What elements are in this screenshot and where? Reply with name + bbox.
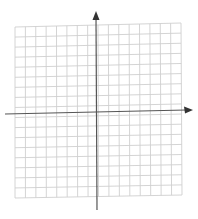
y-axis xyxy=(96,18,97,210)
grid-line-vertical xyxy=(108,25,109,197)
grid-line-vertical xyxy=(160,24,161,196)
grid-line-vertical xyxy=(119,25,120,197)
grid-line-vertical xyxy=(129,24,130,196)
x-axis xyxy=(5,110,186,114)
axes xyxy=(5,11,193,210)
grid-line-vertical xyxy=(140,24,141,196)
grid-line-vertical xyxy=(181,23,182,195)
grid-line-vertical xyxy=(150,24,151,196)
x-axis-arrowhead-icon xyxy=(184,107,193,114)
coordinate-plane xyxy=(0,0,198,219)
grid-line-vertical xyxy=(98,25,99,197)
y-axis-arrowhead-icon xyxy=(93,11,100,20)
grid-line-vertical xyxy=(171,23,172,195)
